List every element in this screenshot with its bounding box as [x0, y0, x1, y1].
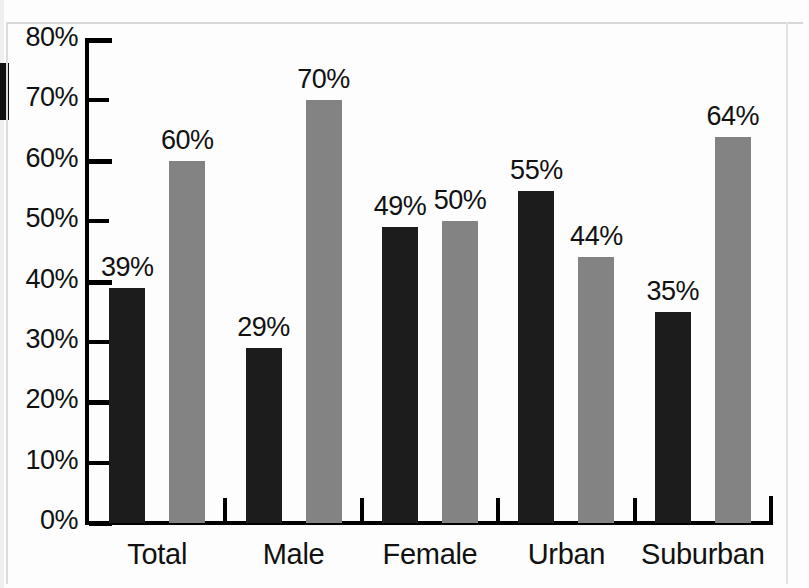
bar-urban-series-dark[interactable] [518, 191, 554, 523]
bar-value-label: 50% [415, 185, 505, 216]
bar-value-label: 29% [219, 312, 309, 343]
bar-value-label: 70% [279, 64, 369, 95]
bar-total-series-gray[interactable] [169, 161, 205, 523]
bar-suburban-series-dark[interactable] [655, 312, 691, 523]
bar-value-label: 44% [551, 221, 641, 252]
bar-total-series-dark[interactable] [109, 288, 145, 523]
category-label-suburban: Suburban [613, 538, 793, 571]
bar-chart: 0%10%20%30%40%50%60%70%80% 39%60%29%70%4… [0, 0, 809, 588]
bar-value-label: 60% [142, 125, 232, 156]
bar-value-label: 55% [491, 155, 581, 186]
bar-value-label: 35% [628, 276, 718, 307]
bar-male-series-gray[interactable] [306, 100, 342, 523]
bar-value-label: 64% [688, 101, 778, 132]
bar-female-series-gray[interactable] [442, 221, 478, 523]
bar-suburban-series-gray[interactable] [715, 137, 751, 523]
bar-urban-series-gray[interactable] [578, 257, 614, 523]
bar-male-series-dark[interactable] [246, 348, 282, 523]
bar-female-series-dark[interactable] [382, 227, 418, 523]
bar-value-label: 39% [82, 252, 172, 283]
